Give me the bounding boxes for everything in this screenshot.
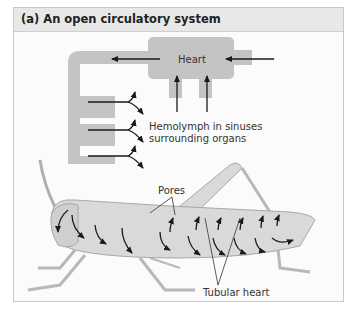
body bbox=[52, 200, 315, 258]
front-leg-2 bbox=[28, 255, 85, 290]
circulatory-diagram: Heart Hemolymph in sinuses surrounding o… bbox=[0, 0, 354, 310]
hemolymph-label-line1: Hemolymph in sinuses bbox=[149, 121, 262, 132]
middle-leg-2 bbox=[150, 258, 180, 268]
tubular-heart-label: Tubular heart bbox=[202, 287, 270, 298]
pores-label: Pores bbox=[158, 185, 185, 196]
heart-ostium-right bbox=[199, 76, 212, 98]
antenna bbox=[40, 160, 55, 207]
hemolymph-label-line2: surrounding organs bbox=[149, 133, 246, 144]
front-leg-1 bbox=[38, 250, 75, 268]
heart-inlet-right bbox=[230, 50, 252, 65]
heart-label: Heart bbox=[178, 54, 206, 65]
heart-ostium-left bbox=[169, 76, 182, 98]
vessel-schematic bbox=[68, 37, 252, 164]
